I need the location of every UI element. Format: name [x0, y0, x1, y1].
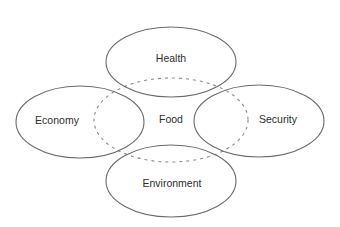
- health-label: Health: [156, 52, 187, 64]
- economy-label: Economy: [35, 114, 80, 126]
- food-systems-diagram: Health Economy Security Environment Food: [0, 0, 340, 227]
- food-label: Food: [159, 113, 183, 125]
- security-label: Security: [259, 113, 298, 125]
- environment-label: Environment: [143, 177, 202, 189]
